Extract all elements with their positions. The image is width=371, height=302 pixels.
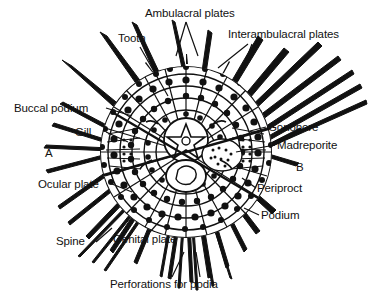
figure-canvas: Ambulacral plates Tooth Interambulacral … xyxy=(0,0,371,302)
label-madreporite: Madreporite xyxy=(277,139,337,151)
label-spine: Spine xyxy=(56,235,85,247)
label-interambulacral-plates: Interambulacral plates xyxy=(228,28,339,40)
sea-urchin-diagram xyxy=(0,0,371,302)
madreporite-patch xyxy=(202,139,242,171)
label-genital-plate: Genital plate xyxy=(113,233,176,245)
label-gonopore: Gonopore xyxy=(268,121,318,133)
label-buccal-podium: Buccal podium xyxy=(14,102,88,114)
label-ocular-plate: Ocular plate xyxy=(38,178,99,190)
label-gill: Gill xyxy=(75,126,91,138)
label-ambulacral-plates: Ambulacral plates xyxy=(145,7,235,19)
label-panel-a: A xyxy=(45,147,53,159)
label-podium: Podium xyxy=(261,209,299,221)
label-panel-b: B xyxy=(296,161,304,173)
label-perforations-for-podia: Perforations for podia xyxy=(110,278,218,290)
label-tooth: Tooth xyxy=(118,32,146,44)
label-periproct: Periproct xyxy=(257,182,302,194)
